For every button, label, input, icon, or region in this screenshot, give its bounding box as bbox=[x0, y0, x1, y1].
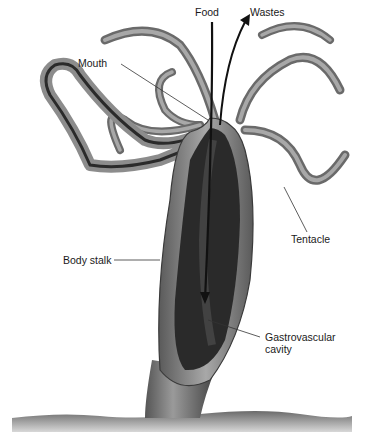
label-wastes: Wastes bbox=[250, 6, 285, 18]
label-gastrovascular: Gastrovascular bbox=[265, 331, 336, 343]
label-mouth: Mouth bbox=[78, 57, 107, 69]
label-food: Food bbox=[195, 6, 219, 18]
label-body-stalk: Body stalk bbox=[63, 254, 111, 266]
label-tentacle: Tentacle bbox=[291, 233, 330, 245]
hydra-diagram: Food Wastes Mouth Tentacle Body stalk Ga… bbox=[0, 0, 368, 444]
hydra-illustration bbox=[0, 0, 368, 444]
label-cavity: cavity bbox=[265, 343, 292, 355]
